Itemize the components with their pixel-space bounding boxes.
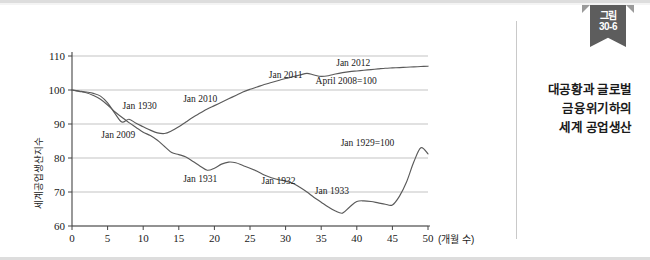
figure-number-ribbon: 그림 30-6 bbox=[590, 5, 626, 47]
annotation-label: April 2008=100 bbox=[316, 76, 377, 86]
industrial-production-line-chart: 11010090807060 05101520253035404550 Jan … bbox=[0, 9, 516, 257]
ribbon-number: 30-6 bbox=[590, 21, 626, 32]
annotation-label: Jan 2010 bbox=[183, 94, 217, 104]
annotation-label: Jan 2012 bbox=[336, 58, 370, 68]
x-tick-label: 40 bbox=[351, 232, 363, 244]
x-tick-label: 50 bbox=[423, 232, 435, 244]
y-tick-label: 70 bbox=[54, 186, 66, 198]
ribbon-fold-right-icon bbox=[626, 5, 634, 13]
x-tick-label: 45 bbox=[387, 232, 399, 244]
annotation-label: Jan 2011 bbox=[269, 70, 303, 80]
x-axis-ticks: 05101520253035404550 bbox=[69, 226, 434, 244]
annotation-label: Jan 1930 bbox=[123, 101, 157, 111]
x-tick-label: 15 bbox=[173, 232, 185, 244]
figure-frame: 11010090807060 05101520253035404550 Jan … bbox=[0, 0, 650, 260]
annotation-label: Jan 1932 bbox=[261, 176, 295, 186]
figure-title-line-1: 대공황과 글로벌 bbox=[522, 81, 632, 100]
x-tick-label: 5 bbox=[105, 232, 111, 244]
y-axis-title: 세계공업생산지수 bbox=[33, 137, 44, 209]
y-tick-label: 60 bbox=[54, 220, 66, 232]
y-tick-label: 90 bbox=[54, 118, 66, 130]
annotation-label: Jan 1931 bbox=[183, 174, 217, 184]
y-axis-ticks: 11010090807060 bbox=[49, 50, 73, 232]
annotation-label: Jan 2009 bbox=[101, 130, 135, 140]
chart-annotations: Jan 1930Jan 2009Jan 2010Jan 2011Jan 2012… bbox=[101, 58, 394, 196]
x-tick-label: 20 bbox=[209, 232, 221, 244]
figure-title-line-3: 세계 공업생산 bbox=[522, 119, 632, 138]
figure-title-line-2: 금융위기하의 bbox=[522, 100, 632, 119]
panel-divider bbox=[516, 21, 517, 239]
x-tick-label: 0 bbox=[69, 232, 75, 244]
annotation-label: Jan 1929=100 bbox=[341, 138, 395, 148]
x-tick-label: 25 bbox=[245, 232, 257, 244]
x-axis-unit-label: (개월 수) bbox=[438, 234, 474, 245]
caption-panel: 그림 30-6 대공황과 글로벌 금융위기하의 세계 공업생산 bbox=[520, 3, 650, 260]
figure-title: 대공황과 글로벌 금융위기하의 세계 공업생산 bbox=[522, 81, 632, 138]
ribbon-label: 그림 bbox=[590, 10, 626, 21]
y-tick-label: 110 bbox=[49, 50, 66, 62]
y-tick-label: 100 bbox=[49, 84, 66, 96]
x-tick-label: 10 bbox=[138, 232, 150, 244]
x-tick-label: 35 bbox=[316, 232, 328, 244]
ribbon-fold-left-icon bbox=[582, 5, 590, 13]
chart-panel: 11010090807060 05101520253035404550 Jan … bbox=[0, 9, 516, 257]
x-tick-label: 30 bbox=[280, 232, 292, 244]
annotation-label: Jan 1933 bbox=[315, 186, 349, 196]
y-tick-label: 80 bbox=[54, 152, 66, 164]
